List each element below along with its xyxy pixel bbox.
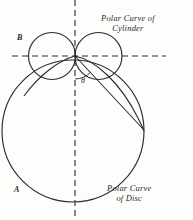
caption-disc-line-2: of Disc: [107, 194, 151, 204]
figure-drawing-canvas: [0, 0, 193, 220]
angle-label-theta: θ: [81, 76, 85, 85]
point-label-a: A: [14, 185, 20, 194]
polar-curve-disc-circle: [2, 60, 144, 202]
polar-curve-figure: Polar Curve of Cylinder Polar Curve of D…: [0, 0, 193, 220]
point-label-b: B: [17, 33, 23, 42]
caption-polar-curve-of-cylinder: Polar Curve of Cylinder: [101, 14, 155, 34]
caption-polar-curve-of-disc: Polar Curve of Disc: [107, 184, 151, 204]
caption-cylinder-line-2: Cylinder: [101, 24, 155, 34]
